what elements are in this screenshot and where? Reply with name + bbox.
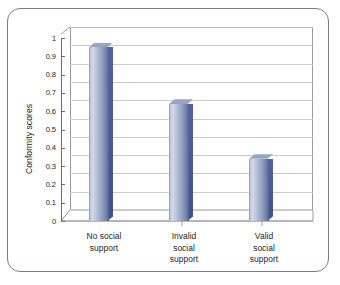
y-tick-mark [61,56,65,57]
y-tick-mark [61,130,65,131]
y-tick-label: 0.4 [34,143,56,152]
y-tick-label: 1 [34,34,56,43]
bar-invalid-social-support[interactable] [169,99,199,221]
bar-front-face [249,159,269,221]
chart-card: 1 0.9 0.8 0.7 0.6 0.5 0.4 0.3 0.2 0.1 0 … [7,8,329,272]
category-line: Invalid [146,231,222,243]
category-line: support [66,243,142,255]
y-tick-mark [61,203,65,204]
y-tick-mark [61,166,65,167]
category-line: social [146,243,222,255]
category-line: social [226,243,302,255]
gridline-1 [70,27,313,28]
x-category-label-invalid-social-support: Invalid social support [146,231,222,266]
bar-front-face [169,104,189,221]
category-line: support [226,254,302,266]
y-tick-mark [61,93,65,94]
plot-depth-edges [52,23,80,223]
y-tick-label: 0.1 [34,198,56,207]
x-category-label-no-social-support: No social support [66,231,142,254]
y-axis-title: Conformity scores [24,104,34,174]
y-tick-mark [61,111,65,112]
y-tick-label: 0.2 [34,180,56,189]
x-axis-tick-marks [52,217,327,229]
category-line: Valid [226,231,302,243]
category-line: No social [66,231,142,243]
y-tick-label: 0.8 [34,70,56,79]
chart-plot-area: 1 0.9 0.8 0.7 0.6 0.5 0.4 0.3 0.2 0.1 0 … [8,9,330,273]
y-tick-mark [61,75,65,76]
bar-front-face [89,47,109,221]
bar-valid-social-support[interactable] [249,154,279,221]
y-tick-label: 0.6 [34,107,56,116]
y-tick-label: 0.9 [34,52,56,61]
y-tick-label: 0.3 [34,162,56,171]
y-tick-label: 0.7 [34,88,56,97]
x-category-label-valid-social-support: Valid social support [226,231,302,266]
bar-no-social-support[interactable] [89,43,119,221]
y-tick-mark [61,184,65,185]
y-tick-mark [61,38,65,39]
y-tick-label: 0.5 [34,125,56,134]
y-tick-mark [61,148,65,149]
category-line: support [146,254,222,266]
